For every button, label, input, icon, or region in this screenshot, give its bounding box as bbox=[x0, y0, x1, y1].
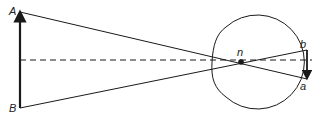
label-n: n bbox=[237, 46, 243, 58]
label-B: B bbox=[9, 102, 16, 114]
label-A: A bbox=[8, 5, 16, 17]
diagram-canvas: A B n b a bbox=[0, 0, 327, 120]
label-b: b bbox=[300, 38, 306, 50]
ray-b bbox=[20, 50, 307, 108]
eye-optics-diagram: A B n b a bbox=[0, 0, 327, 120]
nodal-point bbox=[238, 59, 244, 65]
eyeball-outline bbox=[212, 15, 305, 109]
label-a: a bbox=[300, 80, 306, 92]
ray-a bbox=[20, 12, 307, 79]
